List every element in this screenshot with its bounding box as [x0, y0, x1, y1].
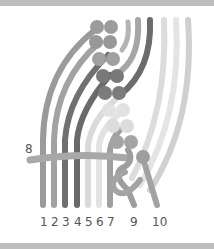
cord-label-3: 3: [62, 216, 70, 228]
knot: [110, 69, 124, 83]
cord-label-9: 9: [130, 216, 138, 228]
knot: [112, 86, 126, 100]
knot: [106, 52, 120, 66]
knot: [116, 103, 130, 117]
cord-label-2: 2: [51, 216, 59, 228]
knot: [104, 20, 118, 34]
cord-label-8: 8: [25, 143, 33, 155]
knot: [98, 86, 112, 100]
cord-label-1: 1: [40, 216, 48, 228]
cord-label-7: 7: [107, 216, 115, 228]
knot: [90, 20, 104, 34]
knot: [106, 119, 120, 133]
knot: [124, 135, 138, 149]
knot: [102, 103, 116, 117]
cord-label-10: 10: [152, 216, 167, 228]
knot: [89, 35, 103, 49]
cord-label-5: 5: [85, 216, 93, 228]
knot: [103, 35, 117, 49]
cord-label-4: 4: [74, 216, 82, 228]
knot: [96, 69, 110, 83]
knot: [120, 119, 134, 133]
knot: [92, 52, 106, 66]
cord-arc-mid-2: [122, 22, 128, 50]
knot: [110, 135, 124, 149]
macrame-diagram: [0, 0, 214, 249]
bottom-band: [0, 243, 214, 249]
knot: [136, 150, 150, 164]
cord-label-6: 6: [96, 216, 104, 228]
